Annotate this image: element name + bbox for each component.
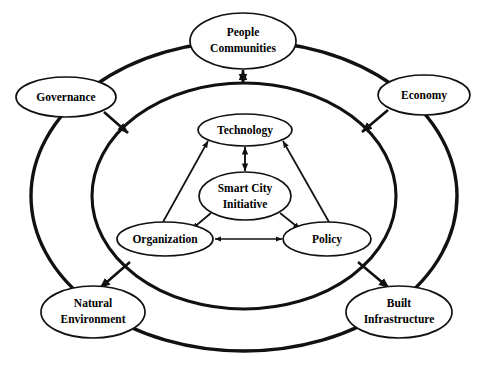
connector-middle-ring-to-built-infrastructure [358,262,389,288]
node-organization-label: Organization [132,233,198,246]
node-policy-label: Policy [312,233,342,246]
node-natural-environment-label-line2: Environment [61,313,126,325]
node-technology-label: Technology [217,124,273,137]
node-people-communities-label-line2: Communities [210,42,276,54]
node-technology[interactable]: Technology [198,114,292,146]
node-smart-city-initiative-shape [199,172,291,220]
node-organization[interactable]: Organization [117,222,213,256]
diagram-canvas: People Communities Governance Economy Na… [0,0,489,372]
smart-city-framework-diagram: People Communities Governance Economy Na… [0,0,489,372]
node-economy-label: Economy [401,89,447,102]
node-natural-environment[interactable]: Natural Environment [41,286,145,338]
node-built-infrastructure-label-line2: Infrastructure [364,313,435,325]
connector-economy-to-middle-ring [362,110,388,132]
node-people-communities[interactable]: People Communities [190,13,296,69]
connector-policy-to-technology [283,141,329,222]
node-smart-city-initiative-label: Smart City [218,182,273,195]
connector-organization-to-technology [163,141,208,222]
node-people-communities-label: People [227,26,260,39]
connector-governance-to-middle-ring [104,112,128,133]
node-policy[interactable]: Policy [283,222,371,256]
connector-middle-ring-to-natural-environment [100,262,130,288]
node-built-infrastructure-label: Built [387,297,411,309]
node-smart-city-initiative[interactable]: Smart City Initiative [199,172,291,220]
node-governance-label: Governance [36,91,95,103]
node-smart-city-initiative-label-line2: Initiative [223,198,268,210]
node-built-infrastructure[interactable]: Built Infrastructure [346,286,452,338]
node-natural-environment-label: Natural [74,297,112,309]
node-economy[interactable]: Economy [378,75,470,115]
node-governance[interactable]: Governance [16,77,116,117]
